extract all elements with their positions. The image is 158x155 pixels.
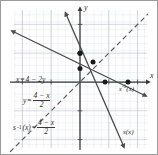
equation-y-equals-fraction: y = 4 − x 2 [23, 92, 50, 109]
graph-figure: y x s-1(x) s(x) x = 4 − 2y y = 4 − x 2 s… [0, 0, 158, 155]
point-1-2 [91, 60, 96, 65]
equation-1-rhs: 4 − 2y [26, 76, 46, 84]
equation-1-equals: = [20, 76, 24, 84]
y-axis-label: y [84, 4, 88, 12]
curve-label-s-inverse-arg: (x) [126, 85, 134, 93]
equation-2-lhs: y [23, 97, 26, 105]
point-0-2-overlap [78, 51, 83, 56]
point-0-2 [78, 66, 83, 71]
equation-2-denominator: 2 [33, 100, 51, 109]
equation-3-exponent: -1 [17, 125, 22, 131]
x-axis-label: x [150, 72, 154, 80]
curve-label-s-inverse: s-1(x) [119, 84, 134, 93]
equation-2-fraction: 4 − x 2 [33, 92, 51, 109]
equation-s-inverse-definition: s-1(x) = 4 − x 2 [13, 119, 55, 136]
equation-3-lhs: s [13, 124, 16, 132]
equation-2-numerator: 4 − x [33, 92, 51, 100]
equation-2-equals: = [27, 97, 31, 105]
equation-3-denominator: 2 [37, 127, 55, 136]
curve-label-s: s(x) [123, 129, 134, 136]
equation-x-equals-4-minus-2y: x = 4 − 2y [16, 76, 45, 84]
point-2-0 [103, 80, 108, 85]
equation-3-arg: (x) [23, 124, 31, 132]
equation-1-lhs: x [16, 76, 19, 84]
equation-3-fraction: 4 − x 2 [37, 119, 55, 136]
equation-3-equals: = [32, 124, 36, 132]
equation-3-numerator: 4 − x [37, 119, 55, 127]
